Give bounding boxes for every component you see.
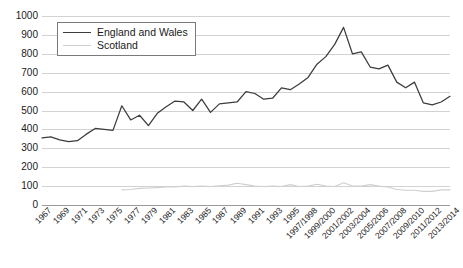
y-tick-label-900: 900	[21, 30, 38, 40]
x-tick-label-1979: 1979	[140, 206, 160, 226]
x-tick-label-1985: 1985	[193, 206, 213, 226]
x-axis: 1967196919711973197519771979198119831985…	[42, 206, 450, 268]
y-tick-label-400: 400	[21, 124, 38, 134]
x-tick-label-1971: 1971	[69, 206, 89, 226]
chart-container: 01002003004005006007008009001000 1967196…	[0, 0, 463, 268]
legend-label-england-and-wales: England and Wales	[97, 27, 188, 38]
y-tick-label-600: 600	[21, 87, 38, 97]
y-tick-label-200: 200	[21, 162, 38, 172]
chart-legend: England and Wales Scotland	[57, 22, 196, 56]
y-tick-label-0: 0	[32, 200, 38, 210]
series-line-scotland	[122, 183, 450, 192]
y-tick-label-500: 500	[21, 106, 38, 116]
x-tick-label-1993: 1993	[264, 206, 284, 226]
x-tick-label-1991: 1991	[247, 206, 267, 226]
y-tick-label-300: 300	[21, 143, 38, 153]
legend-label-scotland: Scotland	[97, 40, 138, 51]
legend-swatch-scotland	[63, 45, 91, 46]
y-tick-label-100: 100	[21, 181, 38, 191]
y-tick-label-1000: 1000	[16, 11, 38, 21]
y-axis: 01002003004005006007008009001000	[0, 0, 42, 211]
x-tick-label-1989: 1989	[229, 206, 249, 226]
y-tick-label-800: 800	[21, 49, 38, 59]
legend-swatch-england-and-wales	[63, 32, 91, 33]
x-tick-label-1987: 1987	[211, 206, 231, 226]
legend-item-england-and-wales: England and Wales	[63, 26, 188, 39]
x-tick-label-1975: 1975	[105, 206, 125, 226]
y-tick-label-700: 700	[21, 68, 38, 78]
x-tick-label-1981: 1981	[158, 206, 178, 226]
x-tick-label-1973: 1973	[87, 206, 107, 226]
legend-item-scotland: Scotland	[63, 39, 188, 52]
x-tick-label-1969: 1969	[51, 206, 71, 226]
x-tick-label-1983: 1983	[176, 206, 196, 226]
x-tick-label-1977: 1977	[122, 206, 142, 226]
